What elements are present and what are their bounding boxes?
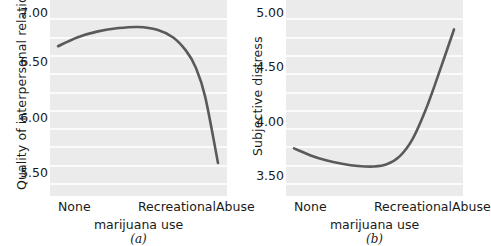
- panel-caption-b: (b): [286, 232, 463, 246]
- plot-area-a: [50, 0, 227, 196]
- data-curve: [294, 29, 454, 166]
- y-tick-label: 4.00: [242, 116, 284, 128]
- x-tick-label: None: [294, 199, 327, 214]
- x-axis-ticks-a: NoneRecreationalAbuse: [50, 199, 227, 217]
- y-tick-label: 4.50: [242, 61, 284, 73]
- y-tick-label: 5.00: [242, 7, 284, 19]
- chart-panel-b: Subjective distress 5.004.504.003.50 Non…: [236, 0, 472, 246]
- y-tick-label: 7.00: [6, 7, 48, 19]
- line-series-b: [286, 0, 463, 196]
- data-curve: [58, 27, 218, 163]
- y-tick-label: 6.50: [6, 56, 48, 68]
- x-axis-title-a: marijuana use: [50, 217, 227, 232]
- y-axis-ticks-a: 7.006.506.005.50: [0, 0, 48, 196]
- x-tick-label: Recreational: [138, 199, 216, 214]
- chart-panel-a: Quality of interpersonal relations 7.006…: [0, 0, 236, 246]
- y-axis-ticks-b: 5.004.504.003.50: [236, 0, 284, 196]
- line-series-a: [50, 0, 227, 196]
- panel-caption-a: (a): [50, 232, 227, 246]
- y-tick-label: 6.00: [6, 112, 48, 124]
- x-tick-label: Recreational: [374, 199, 452, 214]
- x-tick-label: None: [58, 199, 91, 214]
- plot-area-b: [286, 0, 463, 196]
- y-tick-label: 5.50: [6, 167, 48, 179]
- x-tick-label: Abuse: [452, 199, 491, 214]
- x-axis-ticks-b: NoneRecreationalAbuse: [286, 199, 463, 217]
- x-axis-title-b: marijuana use: [286, 217, 463, 232]
- y-tick-label: 3.50: [242, 170, 284, 182]
